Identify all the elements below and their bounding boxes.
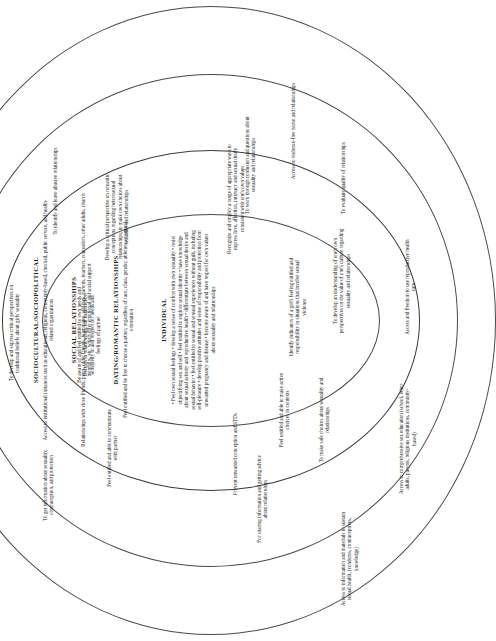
annotation-critical-perspective-romance: Develop a critical perspective on romant… bbox=[104, 169, 130, 265]
annotation-indicators-sexual-violence: Identify indicators of a girl's feeling … bbox=[288, 255, 307, 359]
annotation-critical-perspectives-traditional: To develop and express critical perspect… bbox=[8, 281, 21, 385]
annotation-understanding-own-culture: To develop an understanding of one's own… bbox=[332, 227, 351, 335]
annotation-leave-abusive-relationships: To identify and leave abusive relationsh… bbox=[52, 145, 58, 237]
annotation-violence-free-home: Access to violence-free home and relatio… bbox=[290, 73, 296, 189]
annotation-express-love-intimacy: Recognize and employ a range of appropri… bbox=[226, 137, 245, 261]
description-individual: • Feel own sexual feelings • develop a s… bbox=[170, 230, 216, 410]
annotation-work-through-confusion: To work through confusion and questions … bbox=[244, 113, 257, 217]
annotation-safe-choices: To make safe choices about sexuality and… bbox=[318, 371, 331, 469]
annotation-sexual-health-materials: Access to information and materials to s… bbox=[340, 507, 359, 611]
annotation-get-information-contraception: To get information about sexuality, cont… bbox=[42, 437, 55, 533]
annotation-comprehensive-sex-education: Access to comprehensive sex education (s… bbox=[398, 383, 417, 495]
annotation-reproductive-health-care: Access and freedom to use reproductive h… bbox=[404, 235, 417, 339]
annotation-prevent-unwanted-conception: Prevent unwanted conception and STDs bbox=[232, 413, 238, 495]
annotation-evaluate-quality: To evaluate quality of relationships bbox=[340, 141, 346, 215]
annotation-sharing-information-advice: For sharing information and getting advi… bbox=[256, 453, 269, 545]
individual-title-text: INDIVIDUAL bbox=[160, 298, 167, 342]
heading-individual: INDIVIDUAL bbox=[160, 235, 169, 405]
annotation-communicate-with-partner: Feel entitled and able to communicate wi… bbox=[106, 407, 119, 489]
heading-sociocultural: SOCIOCULTURAL/SOCIOPOLITICAL bbox=[32, 187, 40, 453]
annotation-active-choices: Feel entitled and able to make active ch… bbox=[278, 369, 291, 451]
annotation-own-needs-and-partner: Be aware of and feel entitled to own nee… bbox=[76, 287, 102, 383]
